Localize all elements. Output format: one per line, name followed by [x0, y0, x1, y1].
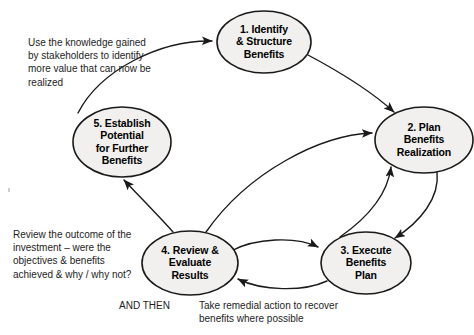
arrow-3-to-4 [238, 279, 327, 289]
arrow-1-to-2 [308, 55, 394, 112]
arrow-4-to-5 [124, 180, 173, 232]
arrow-4-to-3 [231, 240, 318, 251]
caption-remedial-action: Take remedial action to recover benefits… [199, 299, 389, 325]
annotation-knowledge-gained: Use the knowledge gained by stakeholders… [28, 36, 180, 89]
node-plan-benefits-realization[interactable] [375, 107, 473, 173]
node-establish-potential-further-benefits[interactable] [73, 107, 171, 177]
scan-artifact [8, 188, 10, 192]
node-execute-benefits-plan[interactable] [321, 232, 411, 294]
arrow-3-to-2 [340, 167, 391, 237]
node-identify-structure-benefits[interactable] [217, 11, 311, 73]
diagram-canvas: 1. Identify & Structure Benefits 2. Plan… [0, 0, 474, 335]
caption-and-then: AND THEN [119, 299, 209, 312]
annotation-review-outcome: Review the outcome of the investment – w… [13, 228, 165, 281]
arrow-2-to-3 [395, 172, 437, 238]
arrow-4-to-2 [206, 133, 372, 232]
